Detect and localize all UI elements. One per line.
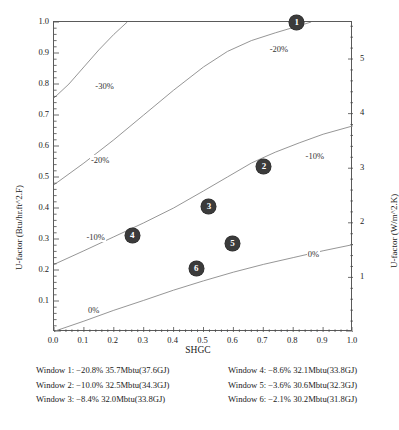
data-marker-1: 1	[289, 15, 304, 30]
caption-window-1: Window 1: −20.8% 35.7Mbtu(37.6GJ)	[0, 363, 204, 378]
contour-plot-svg	[54, 22, 353, 332]
contour-label: -20%	[269, 44, 289, 54]
contour-label: 0%	[87, 305, 100, 315]
y-tick-right-label: 5	[360, 54, 364, 63]
x-tick-label: 0.7	[252, 336, 272, 345]
y-tick-right-label: 4	[360, 108, 364, 117]
y-tick-left-label: 0.7	[28, 110, 49, 119]
x-axis-title: SHGC	[0, 345, 396, 355]
x-tick-label: 0.0	[43, 336, 63, 345]
contour-label: -10%	[85, 232, 105, 242]
x-tick-label: 1.0	[342, 336, 362, 345]
y-tick-right-label: 2	[360, 217, 364, 226]
caption-window-2: Window 2: −10.0% 32.5Mbtu(34.3GJ)	[0, 378, 204, 393]
x-tick-label: 0.6	[222, 336, 242, 345]
contour-label: -20%	[90, 155, 110, 165]
y-tick-left-label: 0.9	[28, 48, 49, 57]
y-tick-left-label: 0.4	[28, 203, 49, 212]
y-axis-left-title: U-factor (Btu/hr.ft^2.F)	[14, 185, 24, 270]
caption-window-4: Window 4: −8.6% 32.1Mbtu(33.8GJ)	[204, 363, 396, 378]
x-tick-label: 0.1	[73, 336, 93, 345]
contour-line-neg30pct	[54, 22, 127, 98]
caption-window-6: Window 6: −2.1% 30.2Mbtu(31.8GJ)	[204, 392, 396, 407]
contour-label: -30%	[94, 81, 114, 91]
caption-window-5: Window 5: −3.6% 30.6Mbtu(32.3GJ)	[204, 378, 396, 393]
caption-row: Window 1: −20.8% 35.7Mbtu(37.6GJ) Window…	[0, 363, 396, 378]
contour-label: -10%	[305, 151, 325, 161]
y-tick-left-label: 0.2	[28, 265, 49, 274]
x-tick-label: 0.8	[282, 336, 302, 345]
caption-row: Window 3: −8.4% 32.0Mbtu(33.8GJ) Window …	[0, 392, 396, 407]
figure-caption: Window 1: −20.8% 35.7Mbtu(37.6GJ) Window…	[0, 363, 396, 407]
y-axis-right-title: U-factor (W/m^2.K)	[389, 194, 399, 268]
y-tick-right-label: 3	[360, 163, 364, 172]
y-tick-right-label: 1	[360, 272, 364, 281]
y-tick-left-label: 0.5	[28, 172, 49, 181]
contour-line-neg10pct	[54, 126, 353, 265]
x-tick-label: 0.2	[103, 336, 123, 345]
axis-tick-marks	[54, 22, 353, 332]
contour-label: 0%	[307, 249, 320, 259]
caption-window-3: Window 3: −8.4% 32.0Mbtu(33.8GJ)	[0, 392, 204, 407]
x-tick-label: 0.3	[133, 336, 153, 345]
data-marker-4: 4	[125, 228, 140, 243]
x-tick-label: 0.4	[163, 336, 183, 345]
y-tick-left-label: 0.6	[28, 141, 49, 150]
x-tick-label: 0.9	[312, 336, 332, 345]
y-tick-left-label: 1.0	[28, 17, 49, 26]
caption-row: Window 2: −10.0% 32.5Mbtu(34.3GJ) Window…	[0, 378, 396, 393]
contour-lines	[54, 22, 353, 331]
y-tick-left-label: 0.1	[28, 296, 49, 305]
data-marker-6: 6	[189, 261, 204, 276]
plot-area: -30%-20%-20%-10%-10%0%0% 123456	[53, 21, 352, 331]
y-tick-left-label: 0.3	[28, 234, 49, 243]
x-tick-label: 0.5	[193, 336, 213, 345]
y-tick-left-label: 0.8	[28, 79, 49, 88]
